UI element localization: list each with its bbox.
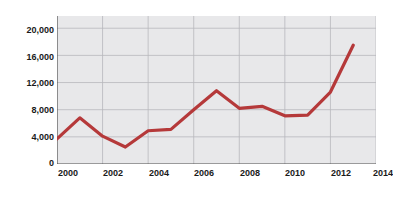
line-chart-svg — [57, 16, 376, 164]
x-tick-label: 2012 — [331, 168, 351, 178]
x-tick-label: 2010 — [285, 168, 305, 178]
x-tick-label: 2002 — [103, 168, 123, 178]
x-tick-label: 2006 — [194, 168, 214, 178]
plot-area — [57, 16, 376, 164]
x-tick-label: 2004 — [149, 168, 169, 178]
x-tick-label: 2008 — [240, 168, 260, 178]
x-tick-label: 2000 — [58, 168, 78, 178]
x-tick-label: 2014 — [373, 168, 393, 178]
